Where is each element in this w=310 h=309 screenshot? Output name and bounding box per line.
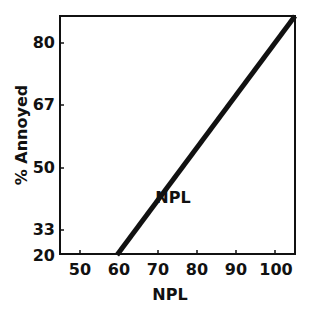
y-tick-80: 80 [33, 33, 55, 52]
chart: 80 67 50 33 20 50 60 70 80 90 100 NPL % … [0, 0, 310, 309]
plot-frame [60, 16, 295, 254]
series-npl-line [117, 16, 295, 255]
y-tick-50: 50 [33, 158, 55, 177]
x-tick-100: 100 [259, 260, 292, 279]
y-axis-label: % Annoyed [12, 85, 31, 186]
x-tick-80: 80 [186, 260, 208, 279]
x-tick-60: 60 [108, 260, 130, 279]
x-tick-90: 90 [225, 260, 247, 279]
x-tick-70: 70 [147, 260, 169, 279]
y-tick-33: 33 [33, 220, 55, 239]
x-axis-label: NPL [152, 285, 187, 304]
y-tick-20: 20 [33, 246, 55, 265]
x-tick-50: 50 [69, 260, 91, 279]
y-tick-67: 67 [33, 95, 55, 114]
line-annotation: NPL [155, 188, 190, 207]
